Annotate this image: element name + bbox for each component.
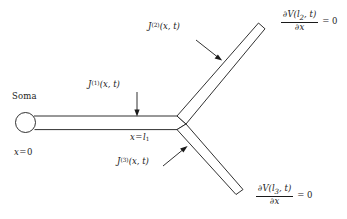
soma-label: Soma (12, 92, 37, 101)
origin-operator: = (19, 147, 27, 157)
current-upper-arrow (196, 40, 222, 61)
bc-lower-equals-zero: = 0 (297, 191, 312, 200)
bc-lower-numerator: ∂V(l3, t) (256, 184, 293, 196)
current-trunk-arrow (134, 92, 139, 117)
current-trunk-args: (x, t) (100, 79, 120, 89)
current-lower-arrow (163, 146, 188, 166)
origin-label: x=0 (14, 148, 32, 157)
bc-upper-equals-zero: = 0 (322, 17, 337, 26)
lower-branch-tube (177, 124, 243, 195)
bc-upper-numerator-rest: , t) (304, 9, 316, 19)
bc-upper-denominator: ∂x (293, 23, 306, 32)
origin-value: 0 (27, 147, 32, 157)
bc-lower-denominator: ∂x (268, 197, 281, 206)
bc-lower-numerator-rest: , t) (279, 183, 291, 193)
junction-value-subscript: 1 (146, 136, 150, 142)
bc-lower-denominator-variable: x (274, 196, 279, 206)
upper-branch-tube (177, 23, 265, 124)
current-upper-superscript: (2) (151, 22, 159, 28)
current-upper-args: (x, t) (160, 21, 180, 31)
current-upper-label: J(2)(x, t) (148, 22, 180, 31)
bc-upper-numerator: ∂V(l2, t) (281, 10, 318, 22)
current-lower-superscript: (3) (120, 157, 128, 163)
boundary-condition-upper: ∂V(l2, t) ∂x = 0 (281, 10, 337, 32)
current-trunk-label: J(1)(x, t) (88, 80, 120, 89)
junction-label: x=l1 (130, 133, 149, 142)
figure-canvas: Soma x=0 x=l1 J(1)(x, t) J(2)(x, t) J(3)… (0, 0, 347, 219)
junction-operator: = (135, 132, 143, 142)
soma-circle (16, 113, 36, 133)
current-trunk-superscript: (1) (91, 80, 99, 86)
bc-upper-denominator-variable: x (299, 22, 304, 32)
bc-upper-fraction: ∂V(l2, t) ∂x (281, 10, 318, 32)
current-lower-args: (x, t) (129, 156, 149, 166)
bc-lower-fraction: ∂V(l3, t) ∂x (256, 184, 293, 206)
boundary-condition-lower: ∂V(l3, t) ∂x = 0 (256, 184, 312, 206)
current-lower-label: J(3)(x, t) (117, 157, 149, 166)
